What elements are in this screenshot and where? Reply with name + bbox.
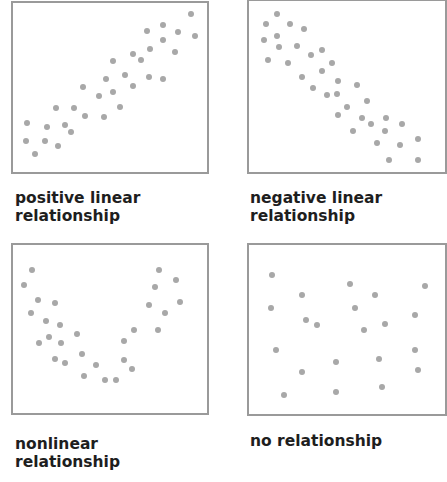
- caption-line: relationship: [15, 207, 140, 225]
- caption-positive-linear: positive linear relationship: [15, 189, 140, 225]
- scatter-panel-positive-linear: [11, 1, 209, 174]
- caption-line: relationship: [250, 207, 382, 225]
- caption-line: no relationship: [250, 432, 382, 450]
- caption-line: nonlinear: [15, 435, 120, 453]
- caption-nonlinear: nonlinear relationship: [15, 435, 120, 471]
- caption-line: relationship: [15, 453, 120, 471]
- scatter-panel-negative-linear: [247, 0, 447, 174]
- scatter-panel-nonlinear: [11, 243, 209, 415]
- caption-line: negative linear: [250, 189, 382, 207]
- caption-line: positive linear: [15, 189, 140, 207]
- caption-no-relationship: no relationship: [250, 432, 382, 450]
- scatter-panel-no-relationship: [247, 243, 447, 416]
- caption-negative-linear: negative linear relationship: [250, 189, 382, 225]
